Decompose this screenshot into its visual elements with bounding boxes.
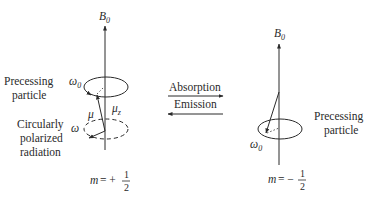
precessing-particle-label-left: Precessing xyxy=(4,75,53,88)
state-label-plus-half: m = + 1 2 xyxy=(90,169,130,193)
transitions: Absorption Emission xyxy=(168,81,223,114)
omega0-label-right: ω0 xyxy=(250,138,262,153)
svg-text:1: 1 xyxy=(300,168,305,179)
projection-dotted-left xyxy=(97,87,104,94)
mu-vector-right xyxy=(266,92,279,133)
projection-dotted-right xyxy=(267,128,279,133)
precessing-particle-label-left-2: particle xyxy=(12,89,46,102)
left-panel: B0 Precessing particle ω0 μ μz Circularl… xyxy=(4,10,130,193)
svg-text:2: 2 xyxy=(300,181,305,192)
b0-label-right: B0 xyxy=(274,27,285,42)
radiation-label-2: polarized xyxy=(20,132,63,145)
radiation-label-1: Circularly xyxy=(17,118,64,131)
mu-vector xyxy=(97,95,105,131)
nmr-precession-diagram: B0 Precessing particle ω0 μ μz Circularl… xyxy=(0,0,375,201)
precessing-particle-label-right: Precessing xyxy=(314,110,363,123)
b0-label-left: B0 xyxy=(99,10,110,25)
precessing-particle-label-right-2: particle xyxy=(324,124,358,137)
svg-text:m: m xyxy=(268,173,276,185)
radiation-field-vector xyxy=(89,131,105,138)
muz-label: μz xyxy=(111,102,122,117)
precession-ellipse-left xyxy=(84,77,128,97)
radiation-ellipse-left xyxy=(84,119,128,139)
absorption-label: Absorption xyxy=(169,81,221,94)
mu-label: μ xyxy=(87,108,94,121)
svg-text:= −: = − xyxy=(278,173,294,185)
svg-text:= +: = + xyxy=(100,174,116,186)
right-panel: B0 ω0 Precessing particle m = − 1 2 xyxy=(250,27,363,192)
precession-ellipse-right xyxy=(258,119,302,139)
svg-text:2: 2 xyxy=(124,182,129,193)
omega-label: ω xyxy=(71,122,79,134)
omega0-label-left: ω0 xyxy=(69,75,81,90)
radiation-label-3: radiation xyxy=(20,146,61,158)
emission-label: Emission xyxy=(174,98,217,110)
svg-text:m: m xyxy=(90,174,98,186)
svg-text:1: 1 xyxy=(124,169,129,180)
state-label-minus-half: m = − 1 2 xyxy=(268,168,306,192)
